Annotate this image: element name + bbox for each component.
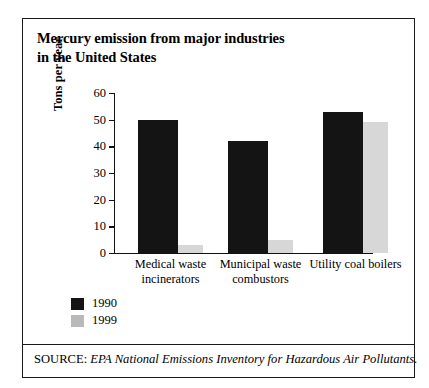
y-tick-label: 10 [94,219,107,234]
y-axis-title: Tons per year [51,19,66,129]
axes: 0102030405060 Medical wasteincineratorsM… [114,93,374,253]
category-label-line-1: Utility coal boilers [309,257,401,271]
bar-1999-group-1 [178,245,203,253]
y-tick-mark [109,120,114,121]
source-note: SOURCE: EPA National Emissions Inventory… [34,352,417,367]
legend-item-1999: 1999 [71,314,117,327]
title-line-1: Mercury emission from major industries [37,29,397,48]
legend-swatch-1990 [71,298,84,310]
bar-1999-group-2 [268,240,293,253]
source-divider [23,344,414,345]
plot-area: Tons per year 0102030405060 Medical wast… [23,71,416,286]
y-tick-mark [109,253,114,254]
bar-1990-group-2 [228,141,268,253]
category-label-line-1: Municipal waste [220,257,302,271]
y-tick-mark [109,93,114,94]
legend-label-1999: 1999 [92,313,117,328]
bar-1990-group-1 [138,120,178,253]
legend-label-1990: 1990 [92,296,117,311]
figure-frame: Mercury emission from major industries i… [22,18,415,378]
y-tick-mark [109,226,114,227]
x-axis-line [114,253,373,254]
page-title: Mercury emission from major industries i… [37,29,397,66]
category-label-line-1: Medical waste [135,257,206,271]
category-label-line-2: combustors [201,272,321,287]
y-tick-mark [109,146,114,147]
y-axis-line [114,93,115,253]
y-tick-mark [109,200,114,201]
bar-1990-group-3 [323,112,363,253]
category-label-3: Utility coal boilers [296,257,416,272]
y-tick-label: 20 [94,192,107,207]
title-line-2: in the United States [37,48,397,67]
y-tick-mark [109,173,114,174]
y-tick-label: 30 [94,166,107,181]
legend-item-1990: 1990 [71,297,117,310]
y-tick-label: 60 [94,86,107,101]
y-tick-label: 40 [94,139,107,154]
chart-legend: 19901999 [71,297,117,331]
source-citation: EPA National Emissions Inventory for Haz… [90,352,417,366]
y-tick-label: 50 [94,112,107,127]
y-tick-label: 0 [100,246,106,261]
bar-1999-group-3 [363,122,388,253]
source-prefix: SOURCE: [34,352,87,366]
legend-swatch-1999 [71,315,84,327]
